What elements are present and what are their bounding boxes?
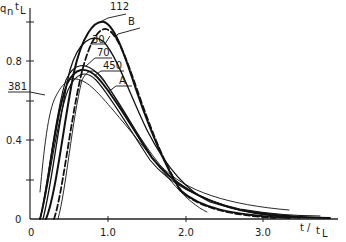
x-tick-label-0: 0 bbox=[28, 227, 34, 238]
svg-text:t: t bbox=[300, 222, 304, 233]
curve-A bbox=[40, 74, 320, 219]
chart: 0 0.4 0.8 0 1.0 2.0 3.0 q n t L t / t L bbox=[0, 0, 346, 242]
x-tick-label-1: 1.0 bbox=[100, 227, 116, 238]
svg-text:/: / bbox=[307, 222, 311, 233]
x-axis-label: t / t L bbox=[300, 222, 328, 239]
svg-text:L: L bbox=[322, 228, 328, 239]
y-axis-label: q n t L bbox=[0, 1, 26, 17]
label-112: 112 bbox=[110, 1, 129, 12]
x-tick-label-3: 3.0 bbox=[255, 227, 271, 238]
y-tick-label-0: 0 bbox=[15, 214, 21, 225]
y-tick-label-0.4: 0.4 bbox=[6, 135, 22, 146]
svg-text:t: t bbox=[15, 1, 19, 12]
svg-text:q: q bbox=[0, 3, 6, 14]
svg-text:n: n bbox=[7, 6, 13, 17]
label-381: 381 bbox=[8, 81, 27, 92]
svg-text:t: t bbox=[316, 225, 320, 236]
label-A: A bbox=[119, 75, 126, 86]
curve-112 bbox=[46, 22, 290, 219]
curve-unlabeled bbox=[58, 71, 289, 219]
label-450: 450 bbox=[103, 60, 122, 71]
label-30: 30 bbox=[92, 34, 105, 45]
svg-text:L: L bbox=[20, 5, 26, 16]
curve-B bbox=[54, 29, 275, 219]
label-B: B bbox=[128, 16, 135, 27]
y-tick-label-0.8: 0.8 bbox=[6, 56, 22, 67]
label-70: 70 bbox=[97, 47, 110, 58]
x-tick-label-2: 2.0 bbox=[178, 227, 194, 238]
